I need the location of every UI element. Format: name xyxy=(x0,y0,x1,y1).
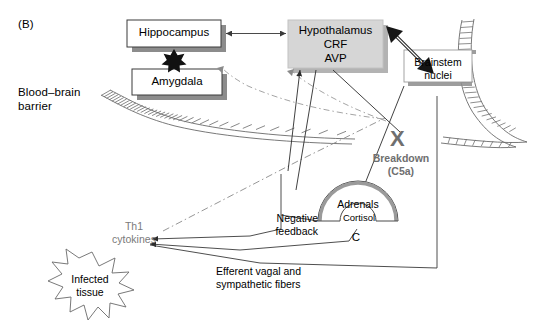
th1-infected-link xyxy=(128,243,140,258)
efferent-fibers-label: Efferent vagal and sympathetic fibers xyxy=(216,265,366,290)
node-label-infected-tissue: Infected tissue xyxy=(58,273,122,298)
panel-label: (B) xyxy=(18,18,34,32)
negative-feedback-label: Negative feedback xyxy=(256,212,318,237)
node-label-amygdala: Amygdala xyxy=(132,75,222,89)
blood-brain-barrier-label: Blood–brain barrier xyxy=(18,86,80,113)
node-label-cortisol: Cortisol xyxy=(333,212,385,223)
breakdown-x-marker: X xyxy=(390,128,405,150)
node-label-hypothalamus: Hypothalamus CRF AVP xyxy=(288,24,383,65)
node-label-hippocampus: Hippocampus xyxy=(127,26,221,40)
figure-panel-b: (B) Blood–brain barrier Hippocampus Amyg… xyxy=(0,0,544,334)
node-label-th1-cytokines: Th1 cytokines xyxy=(98,220,170,245)
node-label-brainstem: Brainstem nuclei xyxy=(404,56,472,81)
node-label-cortisol-abbrev: C xyxy=(348,231,364,245)
node-label-adrenals: Adrenals xyxy=(316,198,400,211)
breakdown-label: Breakdown (C5a) xyxy=(355,152,447,177)
